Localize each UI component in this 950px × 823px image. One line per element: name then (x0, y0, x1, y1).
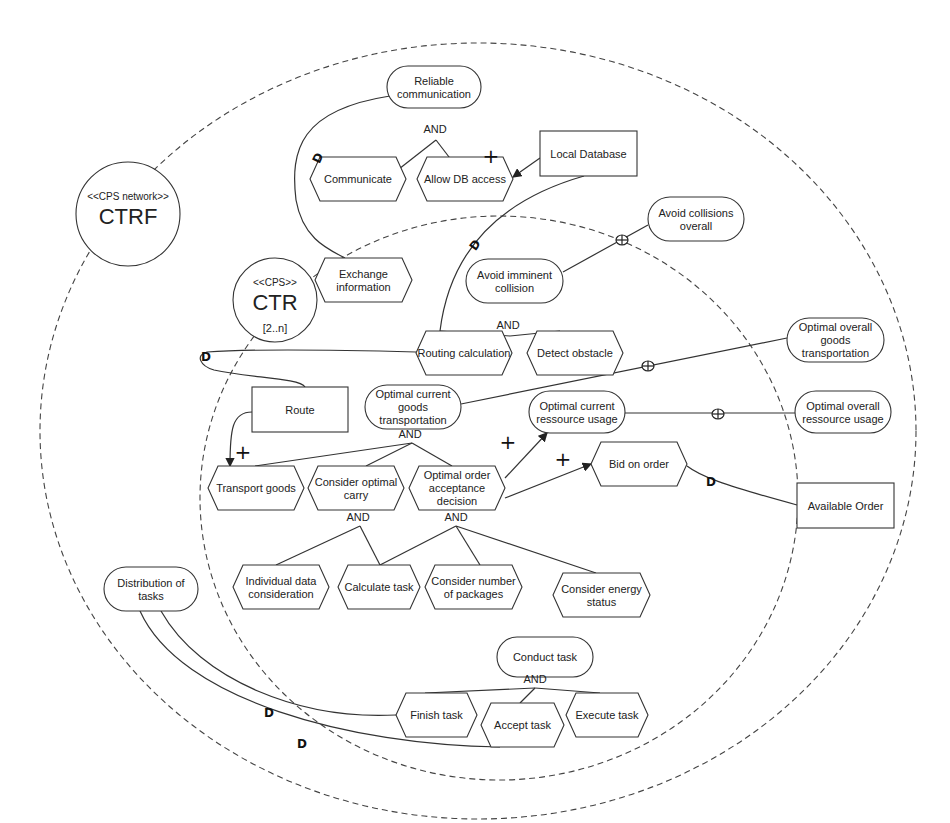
resource-available-order[interactable]: Available Order (797, 483, 894, 528)
link-and-indiv (276, 526, 360, 565)
node-label: Available Order (808, 500, 884, 512)
node-label: Consider optimal (315, 476, 398, 488)
link-contrib-avoid (563, 225, 648, 272)
node-label: Optimal order (424, 469, 491, 481)
node-label: tasks (138, 590, 164, 602)
node-label: carry (344, 489, 369, 501)
node-label: Route (285, 404, 314, 416)
node-label: Transport goods (216, 482, 296, 494)
dependency-d-icon: D (706, 475, 716, 489)
actors: <<CPS network>>CTRF<<CPS>>CTR[2..n] (76, 162, 317, 342)
node-label: Optimal current (539, 400, 614, 412)
contribution-circle-plus-icon (712, 409, 724, 419)
node-label: transportation (802, 347, 869, 359)
node-label: decision (437, 495, 477, 507)
link-and-accept (520, 688, 535, 703)
and-decomposition-label: AND (523, 673, 546, 685)
resource-local-database[interactable]: Local Database (540, 131, 637, 176)
node-label: Calculate task (344, 581, 414, 593)
task-consider-number-of-packages[interactable]: Consider numberof packages (425, 565, 522, 609)
and-decomposition-label: AND (444, 511, 467, 523)
node-label: Exchange (339, 268, 388, 280)
softgoal-conduct-task[interactable]: Conduct task (497, 637, 593, 677)
node-label: Communicate (324, 173, 392, 185)
node-label: Optimal current (375, 388, 450, 400)
actor-multiplicity: [2..n] (263, 322, 287, 334)
and-decomposition-label: AND (346, 511, 369, 523)
node-label: collision (495, 282, 534, 294)
node-label: communication (397, 88, 471, 100)
softgoal-avoid-imminent-collision[interactable]: Avoid imminentcollision (466, 259, 563, 303)
node-label: Reliable (414, 75, 454, 87)
node-label: overall (680, 220, 712, 232)
node-label: Routing calculation (418, 347, 511, 359)
actor-stereotype: <<CPS network>> (87, 191, 169, 202)
node-label: ressource usage (536, 413, 617, 425)
softgoal-optimal-overall-goods-transportation[interactable]: Optimal overallgoodstransportation (787, 318, 884, 362)
task-exchange-information[interactable]: Exchangeinformation (315, 258, 412, 302)
actor-ctrf[interactable]: <<CPS network>>CTRF (76, 162, 180, 266)
node-label: Detect obstacle (537, 347, 613, 359)
positive-contribution-icon: + (235, 440, 252, 464)
node-label: Avoid imminent (477, 269, 552, 281)
softgoal-optimal-current-ressource-usage[interactable]: Optimal currentressource usage (529, 391, 625, 433)
node-label: Consider number (431, 575, 516, 587)
node-label: status (587, 596, 617, 608)
dependency-d-icon: D (201, 350, 211, 364)
link-labels: ANDANDANDANDANDAND++++DDDDDD (201, 123, 724, 751)
goal-model-diagram: <<CPS network>>CTRF<<CPS>>CTR[2..n] Reli… (0, 0, 950, 823)
resource-route[interactable]: Route (252, 387, 348, 432)
task-consider-energy-status[interactable]: Consider energystatus (553, 573, 650, 617)
link-localdb-to-dbaccess (513, 158, 540, 177)
task-optimal-order-acceptance-decision[interactable]: Optimal orderacceptancedecision (409, 466, 505, 510)
link-and-execute (535, 688, 600, 693)
node-label: Allow DB access (424, 173, 506, 185)
link-dep-bid-available (687, 466, 797, 505)
node-label: Finish task (410, 709, 463, 721)
node-label: goods (821, 334, 851, 346)
node-label: Optimal overall (806, 400, 879, 412)
node-label: Individual data (246, 575, 318, 587)
task-calculate-task[interactable]: Calculate task (338, 565, 420, 609)
and-decomposition-label: AND (398, 428, 421, 440)
node-label: Distribution of (117, 577, 185, 589)
actor-stereotype: <<CPS>> (253, 277, 297, 288)
and-decomposition-label: AND (423, 123, 446, 135)
dependency-d-icon: D (264, 706, 274, 720)
positive-contribution-icon: + (483, 144, 500, 168)
task-communicate[interactable]: Communicate (310, 157, 406, 201)
node-label: information (336, 281, 390, 293)
node-label: Conduct task (513, 651, 578, 663)
node-label: Accept task (494, 719, 551, 731)
task-accept-task[interactable]: Accept task (481, 703, 564, 747)
actor-name: CTR (252, 290, 297, 315)
link-and-packages (456, 526, 480, 565)
softgoal-reliable-communication[interactable]: Reliablecommunication (387, 66, 481, 108)
task-transport-goods[interactable]: Transport goods (208, 466, 304, 510)
node-label: transportation (379, 414, 446, 426)
task-consider-optimal-carry[interactable]: Consider optimalcarry (308, 466, 404, 510)
task-detect-obstacle[interactable]: Detect obstacle (527, 331, 623, 375)
task-execute-task[interactable]: Execute task (566, 693, 648, 737)
node-label: Local Database (550, 148, 626, 160)
task-individual-data-consideration[interactable]: Individual dataconsideration (233, 565, 329, 609)
node-label: Consider energy (561, 583, 642, 595)
node-label: of packages (444, 588, 504, 600)
softgoal-avoid-collisions-overall[interactable]: Avoid collisionsoverall (648, 197, 744, 241)
actor-ctr[interactable]: <<CPS>>CTR[2..n] (233, 258, 317, 342)
contribution-circle-plus-icon (616, 235, 628, 245)
node-label: goods (398, 401, 428, 413)
softgoal-optimal-overall-ressource-usage[interactable]: Optimal overallressource usage (795, 391, 891, 433)
task-finish-task[interactable]: Finish task (396, 693, 477, 737)
positive-contribution-icon: + (555, 447, 572, 471)
task-bid-on-order[interactable]: Bid on order (591, 442, 687, 486)
intentional-elements: ReliablecommunicationCommunicateAllow DB… (104, 66, 894, 747)
link-dep-dist-finish (161, 611, 396, 715)
contribution-circle-plus-icon (642, 361, 654, 371)
softgoal-optimal-current-goods-transportation[interactable]: Optimal currentgoodstransportation (365, 385, 461, 429)
link-order-to-bid (505, 464, 591, 498)
softgoal-distribution-of-tasks[interactable]: Distribution oftasks (104, 567, 198, 611)
task-routing-calculation[interactable]: Routing calculation (416, 331, 512, 375)
positive-contribution-icon: + (500, 430, 517, 454)
link-and-calc1 (360, 526, 380, 565)
